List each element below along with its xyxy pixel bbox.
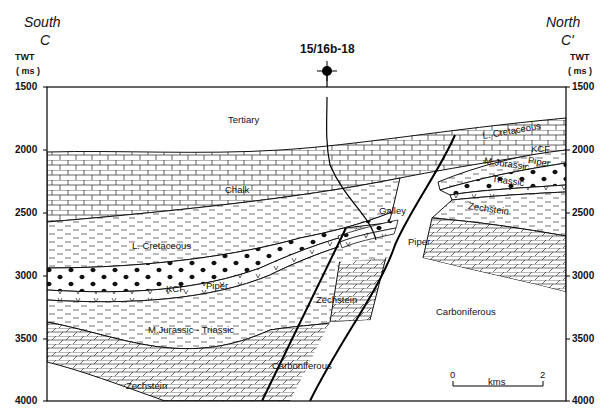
label-carboniferous-north: Carboniferous	[436, 306, 496, 317]
label-tertiary: Tertiary	[228, 114, 259, 125]
label-zechstein-mid: Zechstein	[316, 294, 357, 305]
right-axis-title: TWT	[570, 52, 590, 62]
label-carboniferous-mid: Carboniferous	[272, 360, 332, 371]
left-axis-title: TWT	[15, 52, 35, 62]
left-tick-3500: 3500	[15, 333, 37, 344]
right-tick-2000: 2000	[572, 144, 594, 155]
left-tick-2500: 2500	[15, 207, 37, 218]
label-piper-south: Piper	[206, 280, 228, 291]
right-tick-2500: 2500	[572, 207, 594, 218]
section-end-label: C'	[561, 32, 574, 48]
left-tick-3000: 3000	[15, 270, 37, 281]
right-axis-units: ( ms )	[568, 66, 592, 76]
right-tick-1500: 1500	[572, 81, 594, 92]
left-tick-1500: 1500	[15, 81, 37, 92]
label-l-cretaceous: L. Cretaceous	[132, 240, 191, 251]
right-tick-4000: 4000	[572, 395, 594, 406]
left-tick-4000: 4000	[15, 395, 37, 406]
label-mjurassic-triassic: M.Jurassic - Triassic	[148, 324, 234, 335]
label-kcf: KCF	[166, 283, 185, 294]
label-zechstein-south: Zechstein	[126, 380, 167, 391]
cross-section	[0, 0, 612, 416]
scale-start-label: 0	[450, 369, 455, 380]
well-symbol-icon	[317, 61, 337, 87]
scale-unit-label: kms	[488, 376, 505, 387]
label-chalk: Chalk	[225, 184, 249, 195]
left-tick-2000: 2000	[15, 144, 37, 155]
label-kcf-north: KCF	[531, 143, 550, 154]
right-tick-3000: 3000	[572, 270, 594, 281]
left-axis-units: ( ms )	[16, 66, 40, 76]
well-name-label: 15/16b-18	[300, 42, 355, 56]
scale-end-label: 2	[540, 369, 545, 380]
label-galley: Galley	[379, 205, 406, 216]
section-start-label: C	[40, 32, 50, 48]
label-piper-fault: Piper	[408, 236, 430, 247]
north-direction-label: North	[546, 14, 580, 30]
south-direction-label: South	[24, 14, 61, 30]
right-tick-3500: 3500	[572, 333, 594, 344]
